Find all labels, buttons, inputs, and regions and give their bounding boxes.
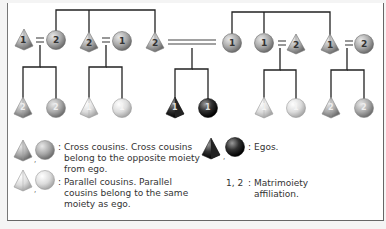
legend-separator: , [34,155,36,166]
moiety-label: 1 [86,103,92,114]
moiety-label: 1 [261,38,267,49]
moiety-label: 2 [293,40,299,51]
moiety-label: 1 [172,103,178,114]
moiety-label: 1 [327,40,333,51]
sibling-connectors [23,10,364,100]
moiety-label: 2 [20,103,26,114]
legend-marker: : [248,178,251,189]
legend-separator: , [34,185,36,196]
moiety-label: 1 [119,103,125,114]
moiety-label: 2 [53,103,59,114]
legend-matrimoiety-line2: affiliation. [254,189,299,200]
moiety-label: 2 [328,103,334,114]
legend-matrimoiety-key: 1, 2 [226,178,243,189]
moiety-label: 2 [361,103,367,114]
legend-egos-text: Egos. [254,142,278,153]
moiety-label: 1 [119,36,125,47]
legend-cross-line3: from ego. [64,164,107,175]
legend-marker: : [58,177,61,188]
legend-cross-line2: belong to the opposite moiety [64,153,200,164]
moiety-label: 1 [293,103,299,114]
moiety-label: 1 [229,38,235,49]
legend-parallel-line3: moiety as ego. [64,199,131,210]
legend-marker: : [248,142,251,153]
generation-1 [15,29,374,54]
moiety-label: 1 [261,103,267,114]
legend-separator: , [223,152,225,163]
legend-marker: : [58,142,61,153]
legend-parallel-line2: cousins belong to the same [64,188,188,199]
legend-parallel-line1: Parallel cousins. Parallel [64,177,172,188]
moiety-label: 2 [361,39,367,50]
moiety-label: 2 [53,35,59,46]
legend-cross-line1: Cross cousins. Cross cousins [64,142,192,153]
moiety-label: 2 [152,38,158,49]
moiety-label: 1 [205,103,211,114]
generation-2 [14,97,374,118]
moiety-label: 1 [20,35,26,46]
moiety-label: 2 [86,38,92,49]
legend-matrimoiety-line1: Matrimoiety [254,178,308,189]
